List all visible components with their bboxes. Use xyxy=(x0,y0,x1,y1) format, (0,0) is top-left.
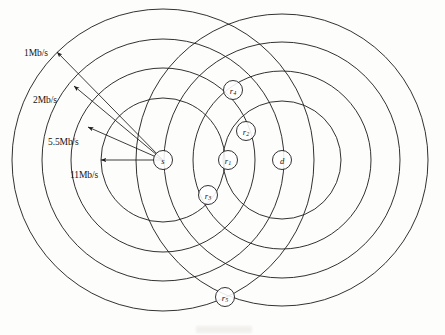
arrow-2mbs xyxy=(74,86,163,160)
node-r4: r4 xyxy=(224,81,243,100)
scan-artifact xyxy=(196,326,252,333)
rate-2mbs: 2Mb/s xyxy=(33,95,57,105)
rate-1mbs: 1Mb/s xyxy=(24,48,48,58)
network-coverage-figure: sr1r2r3r4r5d 1Mb/s2Mb/s5.5Mb/s11Mb/s xyxy=(0,0,445,335)
rate-55mbs: 5.5Mb/s xyxy=(48,137,79,147)
rate-11mbs: 11Mb/s xyxy=(70,170,98,180)
node-r5: r5 xyxy=(216,288,235,307)
node-s: s xyxy=(154,151,173,170)
node-d: d xyxy=(273,151,292,170)
node-r2: r2 xyxy=(237,122,256,141)
network-nodes: sr1r2r3r4r5d xyxy=(154,81,292,307)
node-r1: r1 xyxy=(219,151,238,170)
arrow-55mbs xyxy=(88,127,163,160)
diagram-canvas: sr1r2r3r4r5d xyxy=(0,0,445,335)
node-r3: r3 xyxy=(199,186,218,205)
